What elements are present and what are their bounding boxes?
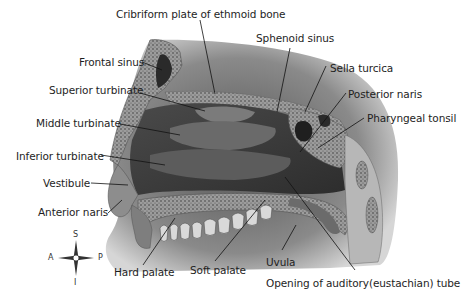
label-sphenoid-sinus: Sphenoid sinus: [256, 32, 334, 44]
orientation-compass-icon: [58, 240, 94, 276]
compass-inferior-label: I: [74, 278, 76, 287]
compass-posterior-label: P: [98, 253, 103, 262]
label-hard-palate: Hard palate: [114, 266, 174, 278]
label-cribriform-plate: Cribriform plate of ethmoid bone: [116, 8, 285, 20]
label-posterior-naris: Posterior naris: [348, 88, 422, 100]
label-auditory-tube-opening: Opening of auditory(eustachian) tube: [266, 277, 460, 289]
sphenoid-sinus-cavity: [295, 121, 313, 142]
label-superior-turbinate: Superior turbinate: [49, 84, 143, 96]
label-sella-turcica: Sella turcica: [330, 62, 393, 74]
label-vestibule: Vestibule: [43, 177, 90, 189]
compass-superior-label: S: [73, 230, 78, 239]
label-uvula: Uvula: [266, 256, 295, 268]
compass-anterior-label: A: [48, 253, 53, 262]
label-inferior-turbinate: Inferior turbinate: [16, 150, 104, 162]
label-soft-palate: Soft palate: [190, 264, 246, 276]
label-middle-turbinate: Middle turbinate: [36, 117, 121, 129]
label-pharyngeal-tonsil: Pharyngeal tonsil: [367, 112, 456, 124]
label-anterior-naris: Anterior naris: [38, 206, 108, 218]
label-frontal-sinus: Frontal sinus: [79, 56, 144, 68]
